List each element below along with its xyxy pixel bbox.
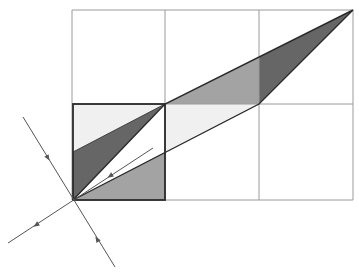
arrow-lower-left-icon <box>33 221 39 226</box>
diagram-canvas <box>0 0 359 277</box>
arrow-inner-icon <box>107 172 113 177</box>
shear-diagram <box>0 0 359 277</box>
